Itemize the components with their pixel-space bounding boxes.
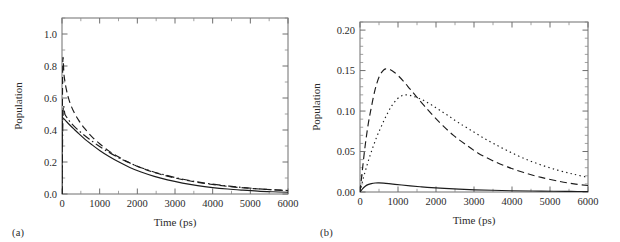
y-tick-label: 0.15 bbox=[337, 65, 355, 76]
panel-tag-b: (b) bbox=[320, 227, 333, 238]
figure-two-panel-population-plots: 01000200030004000500060000.00.20.40.60.8… bbox=[0, 0, 620, 242]
chart-panel-a: 01000200030004000500060000.00.20.40.60.8… bbox=[0, 0, 310, 242]
x-tick-label: 6000 bbox=[578, 196, 599, 207]
panel-tag-a: (a) bbox=[12, 227, 24, 238]
curves-group bbox=[360, 69, 588, 192]
y-tick-label: 0.0 bbox=[44, 189, 57, 200]
x-tick-label: 1000 bbox=[388, 196, 409, 207]
series-curve-dashed bbox=[360, 69, 588, 192]
x-tick-label: 5000 bbox=[240, 198, 261, 209]
y-tick-label: 0.8 bbox=[44, 61, 57, 72]
x-tick-label: 1000 bbox=[89, 198, 110, 209]
y-tick-label: 0.05 bbox=[337, 146, 355, 157]
x-tick-label: 3000 bbox=[165, 198, 186, 209]
x-tick-label: 4000 bbox=[502, 196, 523, 207]
x-axis-title: Time (ps) bbox=[453, 214, 496, 227]
plot-frame bbox=[62, 18, 288, 194]
y-tick-label: 0.00 bbox=[337, 187, 355, 198]
y-tick-label: 0.20 bbox=[337, 25, 355, 36]
series-curve-solid bbox=[62, 117, 288, 194]
x-tick-label: 6000 bbox=[278, 198, 299, 209]
x-tick-label: 4000 bbox=[202, 198, 223, 209]
y-tick-label: 0.10 bbox=[337, 106, 355, 117]
chart-panel-b: 01000200030004000500060000.000.050.100.1… bbox=[310, 0, 620, 242]
x-tick-label: 0 bbox=[357, 196, 362, 207]
curves-group bbox=[62, 57, 288, 194]
x-tick-label: 2000 bbox=[127, 198, 148, 209]
x-axis-title: Time (ps) bbox=[154, 216, 197, 229]
plot-frame bbox=[360, 22, 588, 192]
x-tick-label: 0 bbox=[59, 198, 64, 209]
x-tick-label: 3000 bbox=[464, 196, 485, 207]
series-curve-dashed bbox=[62, 57, 288, 194]
y-axis-title: Population bbox=[12, 82, 24, 130]
x-tick-label: 5000 bbox=[540, 196, 561, 207]
y-tick-label: 0.4 bbox=[44, 125, 58, 136]
y-tick-label: 0.6 bbox=[44, 93, 57, 104]
chart-svg-a: 01000200030004000500060000.00.20.40.60.8… bbox=[0, 0, 310, 242]
series-curve-dash-dot bbox=[62, 106, 288, 194]
series-curve-dotted bbox=[360, 95, 588, 192]
y-tick-label: 1.0 bbox=[44, 29, 57, 40]
x-tick-label: 2000 bbox=[426, 196, 447, 207]
chart-svg-b: 01000200030004000500060000.000.050.100.1… bbox=[310, 0, 620, 242]
y-tick-label: 0.2 bbox=[44, 157, 57, 168]
y-axis-title: Population bbox=[310, 83, 322, 131]
